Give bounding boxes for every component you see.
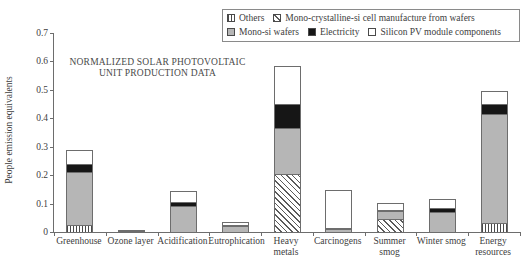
x-category-label-line: Ozone layer (105, 236, 157, 247)
bar-stack[interactable] (170, 191, 197, 232)
legend-swatch-electricity (308, 28, 316, 36)
bar-stack[interactable] (66, 150, 93, 232)
bar-segment (481, 114, 508, 223)
x-category-label: Greenhouse (53, 236, 105, 247)
legend-entry-others[interactable]: Others (227, 12, 264, 24)
legend-label-mono-si-wafers: Mono-si wafers (239, 26, 299, 38)
bar-segment (481, 91, 508, 104)
x-category-label-line: Winter smog (415, 236, 467, 247)
x-category-label-line: Eutrophication (208, 236, 260, 247)
x-category-label-line: Energy (467, 236, 519, 247)
bar-segment (222, 226, 249, 232)
bar-stack[interactable] (429, 199, 456, 232)
bar-segment (377, 219, 404, 232)
x-category-label: Heavymetals (260, 236, 312, 257)
x-category-label: Winter smog (415, 236, 467, 247)
bar-stack[interactable] (274, 66, 301, 232)
x-category-label: Eutrophication (208, 236, 260, 247)
legend-label-silicon-pv-module-components: Silicon PV module components (380, 26, 500, 38)
x-category-label-line: metals (260, 247, 312, 258)
bar-stack[interactable] (377, 203, 404, 232)
bar-segment (325, 229, 352, 232)
bar-segment (325, 190, 352, 227)
x-tick-mark (520, 232, 521, 236)
x-category-label: Acidification (157, 236, 209, 247)
bar-segment (118, 231, 145, 232)
y-axis-label-text: People emission equivalents (4, 76, 14, 184)
legend-entry-electricity[interactable]: Electricity (308, 26, 360, 38)
legend-label-electricity: Electricity (320, 26, 360, 38)
bar-segment (66, 164, 93, 173)
bar-stack[interactable] (325, 190, 352, 232)
bar-segment (274, 104, 301, 128)
bar-stack[interactable] (481, 91, 508, 232)
x-category-label: Summer smog (364, 236, 416, 257)
chart-inner-title: NORMALIZED SOLAR PHOTOVOLTAIC UNIT PRODU… (60, 57, 255, 79)
legend-swatch-mono-crystalline-si-cell (273, 14, 281, 22)
chart-inner-title-line1: NORMALIZED SOLAR PHOTOVOLTAIC (60, 57, 255, 68)
legend-label-mono-crystalline-si-cell: Mono-crystalline-si cell manufacture fro… (285, 12, 474, 24)
y-tick-label: 0.3 (36, 142, 48, 152)
bar-segment (481, 104, 508, 114)
bar-segment (481, 223, 508, 232)
legend-swatch-silicon-pv-module-components (368, 28, 376, 36)
y-tick-label: 0.7 (36, 28, 48, 38)
chart-inner-title-line2: UNIT PRODUCTION DATA (60, 68, 255, 79)
bar-segment (66, 150, 93, 164)
y-tick-label: 0.6 (36, 56, 48, 66)
chart-legend: Others Mono-crystalline-si cell manufact… (222, 9, 520, 42)
bar-stack[interactable] (118, 230, 145, 232)
x-category-label-line: resources (467, 247, 519, 258)
legend-swatch-mono-si-wafers (227, 28, 235, 36)
bar-segment (170, 206, 197, 232)
legend-entry-mono-si-wafers[interactable]: Mono-si wafers (227, 26, 299, 38)
legend-entry-mono-crystalline-si-cell[interactable]: Mono-crystalline-si cell manufacture fro… (273, 12, 474, 24)
y-tick-label: 0.1 (36, 199, 48, 209)
bar-segment (66, 225, 93, 232)
bar-segment (429, 212, 456, 232)
bar-segment (274, 66, 301, 104)
bar-segment (170, 191, 197, 202)
x-category-label-line: Greenhouse (53, 236, 105, 247)
y-tick-label: 0.4 (36, 113, 48, 123)
y-tick-label: 0.2 (36, 170, 48, 180)
x-category-label-line: Carcinogens (312, 236, 364, 247)
bar-segment (274, 174, 301, 232)
x-category-label: Carcinogens (312, 236, 364, 247)
legend-row-2: Mono-si wafers Electricity Silicon PV mo… (227, 26, 515, 38)
x-category-label-line: Acidification (157, 236, 209, 247)
y-tick-label: 0 (43, 227, 48, 237)
y-tick-label: 0.5 (36, 85, 48, 95)
x-category-label: Ozone layer (105, 236, 157, 247)
x-category-label-line: Heavy (260, 236, 312, 247)
bar-stack[interactable] (222, 222, 249, 232)
bar-segment (274, 128, 301, 173)
bar-segment (66, 172, 93, 225)
legend-row-1: Others Mono-crystalline-si cell manufact… (227, 12, 515, 24)
chart-root: Others Mono-crystalline-si cell manufact… (0, 0, 527, 267)
x-category-label: Energyresources (467, 236, 519, 257)
legend-label-others: Others (239, 12, 264, 24)
bar-segment (377, 211, 404, 220)
bar-segment (429, 199, 456, 208)
legend-swatch-others (227, 14, 235, 22)
y-axis-label: People emission equivalents (2, 50, 16, 210)
legend-entry-silicon-pv-module-components[interactable]: Silicon PV module components (368, 26, 500, 38)
x-category-label-line: Summer smog (364, 236, 416, 257)
